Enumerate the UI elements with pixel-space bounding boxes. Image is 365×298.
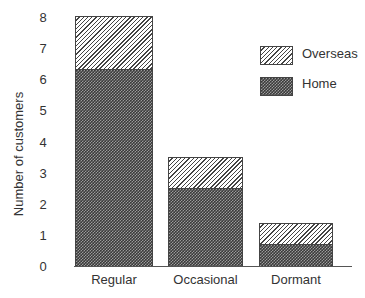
bar-occasional-home bbox=[168, 188, 243, 267]
y-axis-label: Number of customers bbox=[11, 92, 26, 216]
x-label-occasional: Occasional bbox=[163, 272, 248, 287]
legend-swatch-overseas bbox=[260, 46, 293, 65]
y-tick-1: 1 bbox=[36, 228, 50, 243]
bar-regular-home bbox=[75, 69, 153, 267]
bar-occasional-overseas bbox=[168, 157, 243, 189]
y-tick-8: 8 bbox=[36, 10, 50, 25]
x-label-dormant: Dormant bbox=[259, 272, 333, 287]
y-tick-0: 0 bbox=[36, 259, 50, 274]
y-tick-5: 5 bbox=[36, 103, 50, 118]
y-tick-7: 7 bbox=[36, 41, 50, 56]
bar-regular-overseas bbox=[75, 16, 153, 70]
bar-dormant-home bbox=[259, 244, 333, 267]
x-axis-line bbox=[74, 266, 352, 267]
legend-label-home: Home bbox=[302, 76, 337, 91]
y-tick-2: 2 bbox=[36, 197, 50, 212]
legend-label-overseas: Overseas bbox=[302, 46, 358, 61]
bar-dormant-overseas bbox=[259, 223, 333, 245]
y-tick-4: 4 bbox=[36, 135, 50, 150]
y-tick-3: 3 bbox=[36, 166, 50, 181]
x-label-regular: Regular bbox=[75, 272, 153, 287]
y-tick-6: 6 bbox=[36, 72, 50, 87]
legend-swatch-home bbox=[260, 77, 293, 96]
